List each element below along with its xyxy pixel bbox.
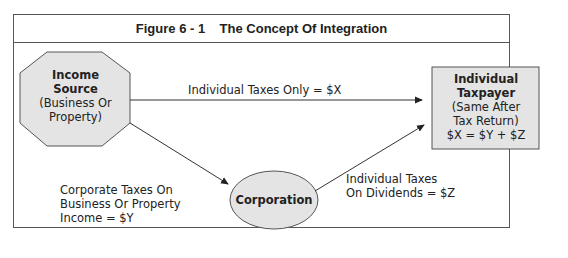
dividends-edge-label-2: On Dividends = $Z: [346, 186, 455, 200]
individual-taxpayer-title-2: Taxpayer: [432, 86, 540, 100]
corporate-edge-label: Corporate Taxes On Business Or Property …: [60, 183, 180, 225]
corporate-edge-label-1: Corporate Taxes On: [60, 183, 180, 197]
corporate-edge-label-2: Business Or Property: [60, 197, 180, 211]
individual-taxpayer-sub-2: Tax Return): [432, 114, 540, 128]
direct-edge-label: Individual Taxes Only = $X: [188, 83, 342, 97]
corporate-edge-arrow: [130, 123, 228, 184]
dividends-edge-label: Individual Taxes On Dividends = $Z: [346, 172, 455, 200]
individual-taxpayer-equation: $X = $Y + $Z: [432, 128, 540, 142]
corporate-edge-label-3: Income = $Y: [60, 211, 180, 225]
income-source-sub-2: Property): [20, 110, 131, 124]
income-source-sub-1: (Business Or: [20, 96, 131, 110]
dividends-edge-label-1: Individual Taxes: [346, 172, 455, 186]
individual-taxpayer-label: Individual Taxpayer (Same After Tax Retu…: [432, 72, 540, 142]
income-source-label: Income Source (Business Or Property): [20, 68, 131, 124]
corporation-label: Corporation: [230, 193, 318, 207]
individual-taxpayer-sub-1: (Same After: [432, 100, 540, 114]
income-source-title-2: Source: [20, 82, 131, 96]
income-source-title-1: Income: [20, 68, 131, 82]
individual-taxpayer-title-1: Individual: [432, 72, 540, 86]
